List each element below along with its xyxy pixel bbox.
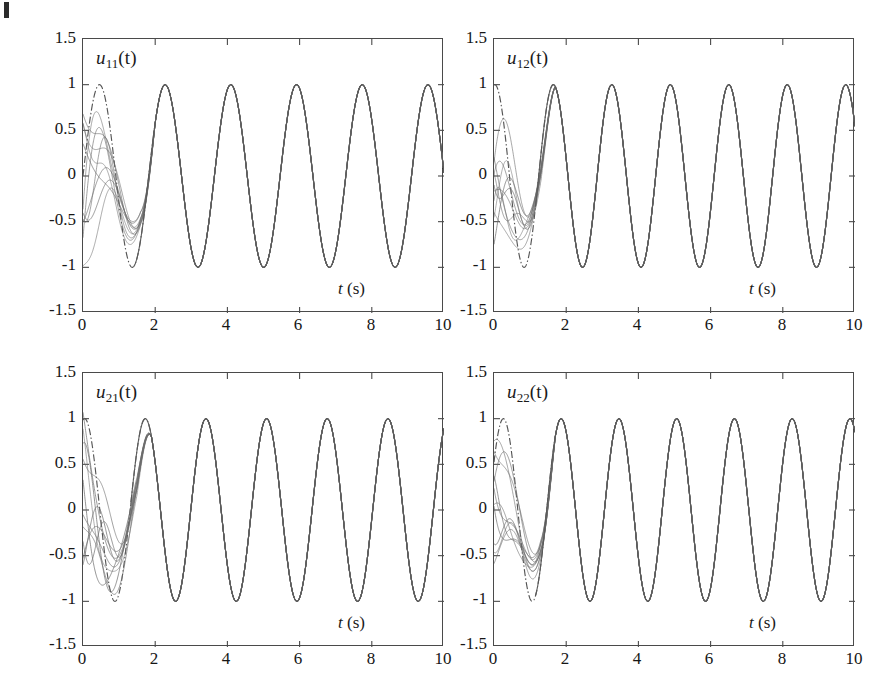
panel-label-u12-arg: (t) (530, 47, 549, 68)
plot-canvas-u12 (494, 39, 855, 313)
ytick-u12-5: -1 (429, 255, 487, 275)
xaxis-label-u11: t (s) (338, 279, 365, 299)
ytick-u21-3: 0 (24, 498, 76, 518)
panel-label-u12: u12(t) (507, 47, 548, 72)
xtick-u11-4: 8 (357, 315, 385, 335)
xaxis-label-u12-var: t (749, 279, 754, 298)
panel-label-u11: u11(t) (96, 47, 137, 72)
ytick-u21-4: -0.5 (18, 544, 76, 564)
ytick-u21-0: 1.5 (24, 362, 76, 382)
xaxis-label-u21-var: t (338, 613, 343, 632)
panel-label-u12-sub: 12 (517, 56, 530, 71)
xtick-u11-0: 0 (68, 315, 96, 335)
xtick-u12-4: 8 (768, 315, 796, 335)
panel-label-u22-sub: 22 (517, 390, 530, 405)
panel-u21: u21(t) t (s) 1.5 1 0.5 0 -0.5 -1 -1.5 0 … (0, 334, 447, 695)
plot-frame-u12 (493, 38, 854, 312)
panel-label-u22: u22(t) (507, 381, 548, 406)
panel-u22: u22(t) t (s) 1.5 1 0.5 0 -0.5 -1 -1.5 0 … (411, 334, 894, 695)
ytick-u11-4: -0.5 (18, 210, 76, 230)
xtick-u22-0: 0 (479, 649, 507, 669)
panel-label-u21-sub: 21 (106, 390, 119, 405)
panel-label-u21-base: u (96, 381, 106, 402)
plot-canvas-u11 (83, 39, 444, 313)
ytick-u22-0: 1.5 (435, 362, 487, 382)
xtick-u11-1: 2 (140, 315, 168, 335)
xaxis-label-u11-unit: (s) (347, 279, 365, 298)
xaxis-label-u21: t (s) (338, 613, 365, 633)
xaxis-label-u11-var: t (338, 279, 343, 298)
ytick-u22-4: -0.5 (429, 544, 487, 564)
xtick-u12-1: 2 (551, 315, 579, 335)
ytick-u21-5: -1 (18, 589, 76, 609)
panel-label-u22-base: u (507, 381, 517, 402)
panel-label-u21-arg: (t) (119, 381, 138, 402)
plot-frame-u11 (82, 38, 443, 312)
ytick-u12-3: 0 (435, 164, 487, 184)
ytick-u12-0: 1.5 (435, 28, 487, 48)
ytick-u12-2: 0.5 (435, 119, 487, 139)
xaxis-label-u12: t (s) (749, 279, 776, 299)
ytick-u11-5: -1 (18, 255, 76, 275)
xtick-u22-1: 2 (551, 649, 579, 669)
xtick-u22-3: 6 (695, 649, 723, 669)
xaxis-label-u21-unit: (s) (347, 613, 365, 632)
xtick-u11-2: 4 (212, 315, 240, 335)
xtick-u21-0: 0 (68, 649, 96, 669)
ytick-u12-4: -0.5 (429, 210, 487, 230)
plot-frame-u22 (493, 372, 854, 646)
ytick-u12-1: 1 (435, 73, 487, 93)
xtick-u22-4: 8 (768, 649, 796, 669)
ytick-u22-2: 0.5 (435, 453, 487, 473)
xtick-u11-3: 6 (284, 315, 312, 335)
panel-u11: u11(t) t (s) 1.5 1 0.5 0 -0.5 -1 -1.5 0 … (0, 0, 447, 348)
ytick-u22-3: 0 (435, 498, 487, 518)
xaxis-label-u12-unit: (s) (758, 279, 776, 298)
ytick-u11-2: 0.5 (24, 119, 76, 139)
xaxis-label-u22-unit: (s) (758, 613, 776, 632)
panel-u12: u12(t) t (s) 1.5 1 0.5 0 -0.5 -1 -1.5 0 … (411, 0, 894, 348)
plot-canvas-u21 (83, 373, 444, 647)
ytick-u11-1: 1 (24, 73, 76, 93)
xaxis-label-u22: t (s) (749, 613, 776, 633)
ytick-u21-1: 1 (24, 407, 76, 427)
xaxis-label-u22-var: t (749, 613, 754, 632)
ytick-u22-5: -1 (429, 589, 487, 609)
xtick-u22-2: 4 (623, 649, 651, 669)
ytick-u21-2: 0.5 (24, 453, 76, 473)
xtick-u21-3: 6 (284, 649, 312, 669)
panel-label-u11-sub: 11 (106, 56, 119, 71)
xtick-u12-0: 0 (479, 315, 507, 335)
xtick-u21-1: 2 (140, 649, 168, 669)
panel-label-u11-base: u (96, 47, 106, 68)
panel-label-u12-base: u (507, 47, 517, 68)
xtick-u12-3: 6 (695, 315, 723, 335)
ytick-u11-0: 1.5 (24, 28, 76, 48)
plot-frame-u21 (82, 372, 443, 646)
panel-label-u21: u21(t) (96, 381, 137, 406)
panel-label-u11-arg: (t) (118, 47, 137, 68)
figure-canvas: u11(t) t (s) 1.5 1 0.5 0 -0.5 -1 -1.5 0 … (0, 0, 894, 695)
xtick-u22-5: 10 (839, 649, 869, 669)
ytick-u22-1: 1 (435, 407, 487, 427)
xtick-u21-4: 8 (357, 649, 385, 669)
ytick-u11-3: 0 (24, 164, 76, 184)
panel-label-u22-arg: (t) (530, 381, 549, 402)
xtick-u21-2: 4 (212, 649, 240, 669)
plot-canvas-u22 (494, 373, 855, 647)
xtick-u12-5: 10 (839, 315, 869, 335)
xtick-u12-2: 4 (623, 315, 651, 335)
